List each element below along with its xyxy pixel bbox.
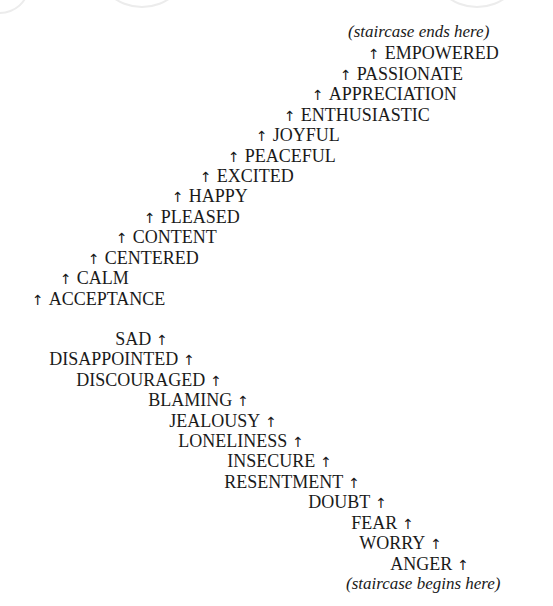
up-arrow-icon: ↑ xyxy=(265,412,277,432)
decorative-arc-center xyxy=(95,0,189,8)
step-label: HAPPY xyxy=(189,186,248,206)
up-arrow-icon: ↑ xyxy=(284,106,296,126)
step-label: APPRECIATION xyxy=(329,84,457,104)
step-label: PASSIONATE xyxy=(357,64,463,84)
step-appreciation: ↑APPRECIATION xyxy=(312,84,457,105)
step-resentment: RESENTMENT↑ xyxy=(224,472,360,493)
up-arrow-icon: ↑ xyxy=(228,147,240,167)
step-label: ACCEPTANCE xyxy=(49,289,166,309)
staircase-begin-note: (staircase begins here) xyxy=(346,574,501,594)
up-arrow-icon: ↑ xyxy=(116,228,128,248)
up-arrow-icon: ↑ xyxy=(375,493,387,513)
step-label: RESENTMENT xyxy=(224,472,343,492)
step-sad: SAD↑ xyxy=(115,329,168,350)
up-arrow-icon: ↑ xyxy=(348,473,360,493)
step-happy: ↑HAPPY xyxy=(172,186,248,207)
step-label: LONELINESS xyxy=(178,431,287,451)
up-arrow-icon: ↑ xyxy=(340,65,352,85)
up-arrow-icon: ↑ xyxy=(402,514,414,534)
up-arrow-icon: ↑ xyxy=(256,126,268,146)
up-arrow-icon: ↑ xyxy=(237,391,249,411)
up-arrow-icon: ↑ xyxy=(88,249,100,269)
up-arrow-icon: ↑ xyxy=(430,534,442,554)
step-label: DOUBT xyxy=(308,492,370,512)
up-arrow-icon: ↑ xyxy=(312,85,324,105)
step-acceptance: ↑ACCEPTANCE xyxy=(32,289,165,310)
step-label: CALM xyxy=(77,268,129,288)
step-centered: ↑CENTERED xyxy=(88,248,199,269)
step-label: SAD xyxy=(115,329,151,349)
step-label: BLAMING xyxy=(148,390,232,410)
step-label: CONTENT xyxy=(133,227,217,247)
up-arrow-icon: ↑ xyxy=(32,290,44,310)
step-label: INSECURE xyxy=(227,451,315,471)
step-excited: ↑EXCITED xyxy=(200,166,294,187)
step-label: PLEASED xyxy=(161,207,240,227)
step-label: CENTERED xyxy=(105,248,199,268)
step-pleased: ↑PLEASED xyxy=(144,207,240,228)
up-arrow-icon: ↑ xyxy=(368,44,380,64)
step-enthusiastic: ↑ENTHUSIASTIC xyxy=(284,105,430,126)
step-label: JEALOUSY xyxy=(169,411,260,431)
step-label: ANGER xyxy=(390,554,452,574)
step-worry: WORRY↑ xyxy=(359,533,442,554)
step-fear: FEAR↑ xyxy=(351,513,414,534)
step-insecure: INSECURE↑ xyxy=(227,451,332,472)
up-arrow-icon: ↑ xyxy=(60,269,72,289)
step-label: JOYFUL xyxy=(273,125,340,145)
step-doubt: DOUBT↑ xyxy=(308,492,387,513)
step-jealousy: JEALOUSY↑ xyxy=(169,411,277,432)
step-anger: ANGER↑ xyxy=(390,554,469,575)
step-label: EXCITED xyxy=(217,166,294,186)
step-calm: ↑CALM xyxy=(60,268,129,289)
step-label: DISCOURAGED xyxy=(76,370,205,390)
up-arrow-icon: ↑ xyxy=(320,452,332,472)
step-label: DISAPPOINTED xyxy=(49,349,178,369)
step-loneliness: LONELINESS↑ xyxy=(178,431,304,452)
step-label: EMPOWERED xyxy=(385,43,499,63)
step-passionate: ↑PASSIONATE xyxy=(340,64,463,85)
step-blaming: BLAMING↑ xyxy=(148,390,249,411)
staircase-end-note: (staircase ends here) xyxy=(348,22,489,42)
step-empowered: ↑EMPOWERED xyxy=(368,43,499,64)
step-disappointed: DISAPPOINTED↑ xyxy=(49,349,195,370)
step-discouraged: DISCOURAGED↑ xyxy=(76,370,222,391)
step-label: ENTHUSIASTIC xyxy=(301,105,430,125)
up-arrow-icon: ↑ xyxy=(210,371,222,391)
step-peaceful: ↑PEACEFUL xyxy=(228,146,336,167)
step-label: PEACEFUL xyxy=(245,146,336,166)
up-arrow-icon: ↑ xyxy=(144,208,156,228)
step-joyful: ↑JOYFUL xyxy=(256,125,340,146)
up-arrow-icon: ↑ xyxy=(292,432,304,452)
up-arrow-icon: ↑ xyxy=(183,350,195,370)
decorative-arc-left xyxy=(0,0,29,14)
up-arrow-icon: ↑ xyxy=(200,167,212,187)
up-arrow-icon: ↑ xyxy=(457,555,469,575)
up-arrow-icon: ↑ xyxy=(172,187,184,207)
up-arrow-icon: ↑ xyxy=(156,330,168,350)
step-label: FEAR xyxy=(351,513,397,533)
decorative-arc-right xyxy=(430,0,524,8)
step-label: WORRY xyxy=(359,533,425,553)
step-content: ↑CONTENT xyxy=(116,227,217,248)
